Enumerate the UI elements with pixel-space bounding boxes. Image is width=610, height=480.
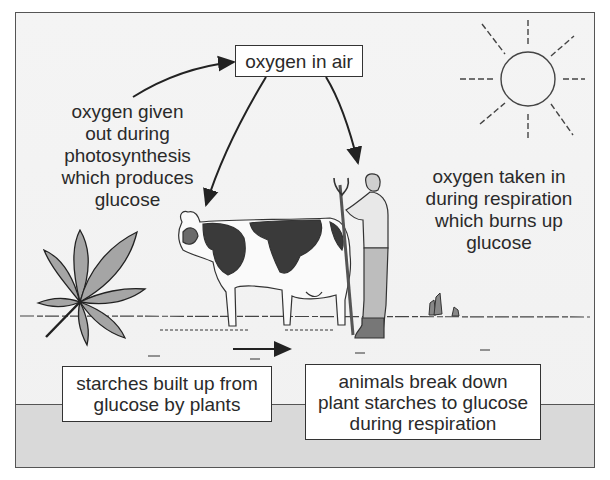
grass-tufts xyxy=(148,330,490,359)
animals-break-down-box: animals break down plant starches to glu… xyxy=(305,364,541,440)
leaf-icon xyxy=(38,230,145,345)
oxygen-in-air-label: oxygen in air xyxy=(236,51,362,72)
photosynthesis-label: oxygen given out during photosynthesis w… xyxy=(40,101,215,211)
cow-illustration xyxy=(179,211,351,326)
rocks-icon xyxy=(429,293,459,316)
respiration-label: oxygen taken in during respiration which… xyxy=(408,166,590,254)
arrow-plant-to-air xyxy=(133,62,234,97)
arrow-air-to-man xyxy=(326,77,358,163)
sun-icon xyxy=(460,20,585,140)
arrow-air-to-cow xyxy=(206,77,266,205)
oxygen-in-air-box: oxygen in air xyxy=(235,45,363,77)
starches-built-up-box: starches built up from glucose by plants xyxy=(62,366,272,422)
